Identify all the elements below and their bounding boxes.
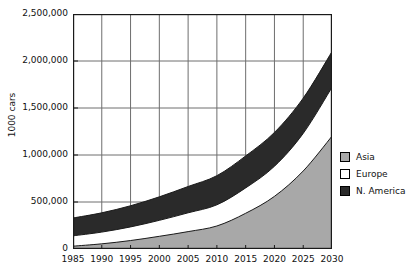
y-axis-tick-labels: 2,500,0002,000,0001,500,0001,000,000500,… [0,0,68,275]
y-tick-label: 0 [6,243,68,253]
y-tick-label: 1,500,000 [6,102,68,112]
legend-swatch [340,186,350,196]
stacked-area-svg [73,14,332,249]
y-tick-label: 500,000 [6,196,68,206]
chart-legend: AsiaEuropeN. America [340,148,417,199]
chart-page: 1000 cars 2,500,0002,000,0001,500,0001,0… [0,0,417,275]
legend-label: Asia [356,152,375,162]
legend-item[interactable]: Europe [340,165,417,182]
y-tick-label: 1,000,000 [6,149,68,159]
legend-swatch [340,152,350,162]
legend-swatch [340,169,350,179]
x-tick-label: 2030 [312,254,352,264]
x-axis-tick-labels: 1985199019952000200520102015202020252030 [73,254,332,270]
legend-item[interactable]: N. America [340,182,417,199]
plot-area [73,14,332,249]
y-tick-label: 2,500,000 [6,8,68,18]
legend-label: N. America [356,186,406,196]
legend-item[interactable]: Asia [340,148,417,165]
y-tick-label: 2,000,000 [6,55,68,65]
legend-label: Europe [356,169,388,179]
